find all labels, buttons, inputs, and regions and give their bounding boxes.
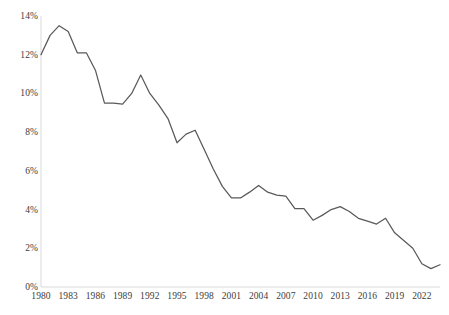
- line-chart: 0%2%4%6%8%10%12%14% 19801983198619891992…: [0, 0, 449, 315]
- x-axis-tick-labels: 1980198319861989199219951998200120042007…: [0, 0, 449, 315]
- x-tick-label: 2022: [406, 291, 438, 302]
